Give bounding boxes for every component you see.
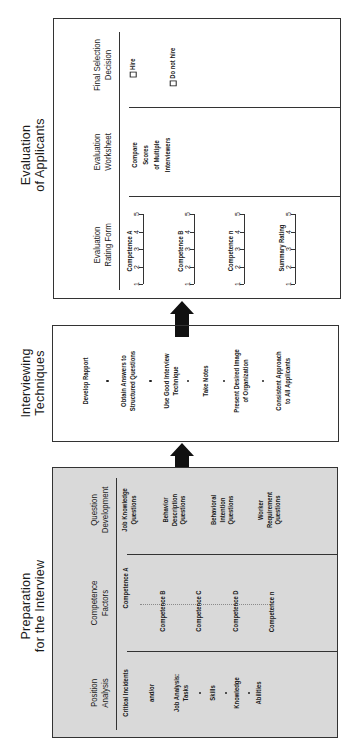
scale-tick — [190, 214, 194, 215]
interviewing-box — [52, 325, 339, 442]
scale-axis — [295, 214, 296, 284]
scale-axis — [143, 214, 144, 284]
evaluation-header-divider — [119, 32, 120, 290]
scale-tick — [240, 284, 244, 285]
scale-tick — [190, 249, 194, 250]
scale-tick — [240, 214, 244, 215]
checkbox-icon[interactable] — [169, 81, 176, 87]
scale-tick — [291, 249, 295, 250]
scale-axis — [194, 214, 195, 284]
evaluation-column-divider-2 — [129, 196, 340, 197]
scale-tick — [139, 267, 143, 268]
scale-tick — [291, 214, 295, 215]
scale-tick — [240, 232, 244, 233]
evaluation-column-divider-1 — [129, 107, 340, 108]
scale-tick — [240, 249, 244, 250]
preparation-column-divider-1 — [127, 554, 337, 555]
scale-tick — [291, 232, 295, 233]
preparation-column-divider-2 — [127, 651, 337, 652]
scale-tick — [291, 267, 295, 268]
scale-tick — [139, 249, 143, 250]
bullet-icon — [149, 380, 151, 382]
scale-tick — [240, 267, 244, 268]
scale-tick — [190, 267, 194, 268]
scale-tick — [190, 284, 194, 285]
scale-tick — [139, 214, 143, 215]
scale-tick — [190, 232, 194, 233]
scale-axis — [244, 214, 245, 284]
preparation-header-divider — [116, 478, 117, 730]
bullet-icon — [106, 380, 108, 382]
checkbox-icon[interactable] — [129, 72, 136, 78]
scale-tick — [139, 232, 143, 233]
scale-tick — [139, 284, 143, 285]
scale-tick — [291, 284, 295, 285]
